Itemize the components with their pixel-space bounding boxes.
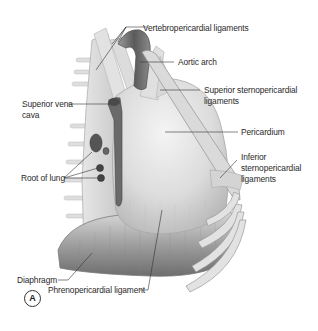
label-vertebropericardial-ligaments: Vertebropericardial ligaments (143, 23, 249, 33)
label-superior-vena-cava-2: cava (22, 110, 39, 120)
label-diaphragm: Diaphragm (17, 275, 57, 285)
label-pericardium: Pericardium (241, 127, 285, 137)
label-inferior-sternopericardial-1: Inferior (241, 152, 266, 162)
label-root-of-lung: Root of lung (21, 173, 65, 183)
label-superior-sternopericardial-2: ligaments (204, 96, 239, 106)
label-inferior-sternopericardial-2: sternopericardial (241, 163, 301, 173)
panel-label-badge: A (24, 290, 41, 307)
anatomy-figure: Vertebropericardial ligaments Aortic arc… (0, 0, 318, 331)
label-superior-vena-cava-1: Superior vena (22, 99, 73, 109)
label-phrenopericardial-ligament: Phrenopericardial ligament (48, 285, 145, 295)
label-superior-sternopericardial-1: Superior sternopericardial (204, 85, 297, 95)
label-inferior-sternopericardial-3: ligaments (241, 174, 276, 184)
label-aortic-arch: Aortic arch (178, 57, 217, 67)
